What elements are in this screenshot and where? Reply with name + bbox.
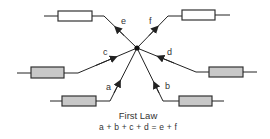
branch-f: f	[137, 10, 230, 48]
label-c: c	[103, 47, 108, 57]
resistor-c	[31, 67, 64, 78]
branch-e: e	[44, 11, 137, 48]
branch-c: c	[17, 47, 137, 78]
resistor-e	[58, 11, 92, 21]
label-f: f	[149, 16, 152, 26]
arrow-b-icon	[155, 85, 159, 94]
arrow-f-icon	[149, 28, 156, 35]
label-e: e	[121, 16, 126, 26]
arrow-a-icon	[114, 83, 119, 93]
junction-node	[134, 45, 139, 50]
label-a: a	[106, 82, 111, 92]
resistor-b	[179, 96, 212, 106]
arrow-d-icon	[160, 57, 174, 63]
arrow-e-icon	[117, 29, 124, 36]
label-b: b	[165, 81, 170, 91]
label-d: d	[167, 47, 172, 57]
resistor-d	[209, 67, 243, 77]
resistor-a	[62, 96, 96, 106]
diagram-equation: a + b + c + d = e + f	[3, 122, 270, 132]
diagram-title: First Law	[3, 110, 270, 121]
branch-d: d	[137, 47, 257, 77]
resistor-f	[182, 10, 215, 20]
arrow-c-icon	[96, 58, 114, 66]
